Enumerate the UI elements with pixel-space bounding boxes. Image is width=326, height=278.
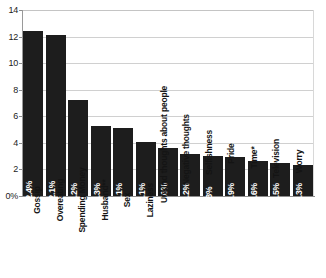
bar-slot[interactable]: 5.1% — [113, 10, 133, 196]
category-label: Television — [272, 139, 281, 178]
y-tick-label: 14 — [8, 5, 18, 15]
x-axis-labels: GossipOvereatingSpending MoneyHusband**S… — [22, 198, 314, 278]
bar-slot[interactable]: 2.9%Pride — [225, 10, 245, 196]
category-label: Sex — [123, 193, 132, 208]
category-label: Spending Money — [78, 167, 87, 232]
bar-chart: 14121086420% 12.4%12.1%7.2%5.3%5.1%4.1%3… — [0, 0, 326, 278]
bar-slot[interactable]: 2.5%Television — [270, 10, 290, 196]
category-label: Time* — [249, 146, 258, 168]
y-tick-label: 8 — [13, 85, 18, 95]
y-tick-label: 6 — [13, 111, 18, 121]
bar-slot[interactable]: 2.3%Worry — [293, 10, 313, 196]
category-label: Overeating — [56, 179, 65, 221]
y-tick-label: 10 — [8, 58, 18, 68]
y-tick-label: 0% — [5, 191, 18, 201]
bar-slot[interactable]: 2.6%Time* — [248, 10, 268, 196]
bar[interactable] — [23, 31, 43, 196]
bar-slot[interactable]: 3%Selfishness — [203, 10, 223, 196]
bar-slot[interactable]: 3.6%Unkind thoughts about people — [158, 10, 178, 196]
y-tick-label: 2 — [13, 164, 18, 174]
bar-slot[interactable]: 5.3% — [91, 10, 111, 196]
category-label: Husband** — [101, 179, 110, 220]
bar[interactable] — [46, 35, 66, 196]
category-label: Worry — [294, 150, 303, 173]
category-label: Unkind thoughts about people — [159, 86, 168, 203]
category-label: Laziness — [146, 183, 155, 217]
bar-value-label: 3% — [204, 186, 213, 198]
y-tick-label: 4 — [13, 138, 18, 148]
bar-series: 12.4%12.1%7.2%5.3%5.1%4.1%3.6%Unkind tho… — [22, 10, 314, 196]
y-tick-label: 12 — [8, 32, 18, 42]
category-label: Gossip — [33, 186, 42, 214]
bar-slot[interactable]: 12.1% — [46, 10, 66, 196]
y-axis: 14121086420% — [0, 0, 22, 206]
bar-slot[interactable]: 12.4% — [23, 10, 43, 196]
category-label: Pride — [227, 143, 236, 163]
bar-slot[interactable]: 4.1% — [136, 10, 156, 196]
category-label: Selfishness — [204, 130, 213, 175]
category-label: Negative thoughts — [182, 114, 191, 185]
bar-slot[interactable]: 3.2%Negative thoughts — [180, 10, 200, 196]
